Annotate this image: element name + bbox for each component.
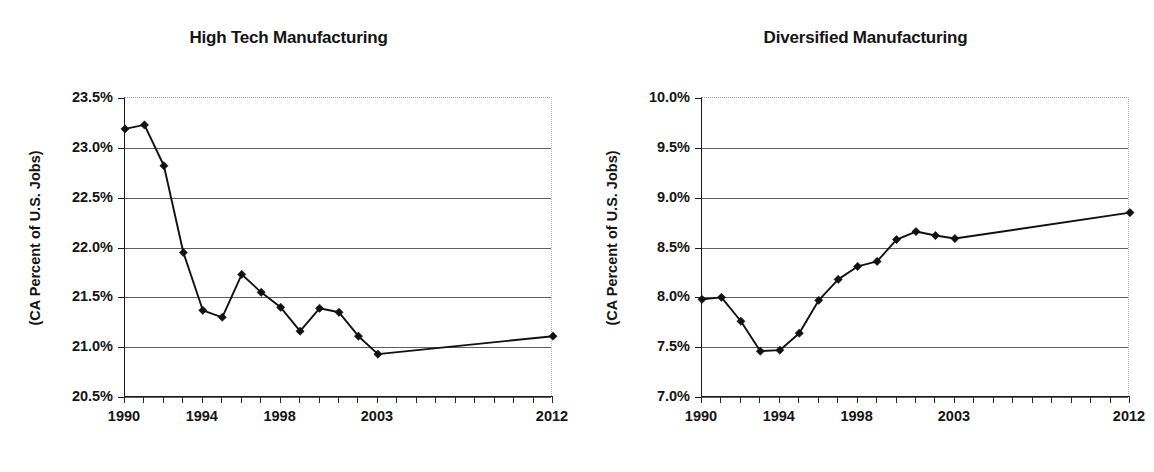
x-tick-label-1990: 1990 (685, 408, 717, 424)
x-tick-mark (759, 396, 760, 403)
x-tick-mark (1032, 396, 1033, 403)
y-axis-title-right-text: (CA Percent of U.S. Jobs) (604, 150, 620, 325)
x-tick-mark (182, 396, 183, 403)
y-tick-mark (118, 148, 125, 149)
x-tick-mark (202, 396, 203, 403)
y-tick-mark (695, 198, 702, 199)
x-tick-mark (435, 396, 436, 403)
plot-area-left (124, 97, 552, 396)
y-tick-label-right: 10.0% (620, 89, 690, 105)
chart-panel-high-tech-manufacturing: High Tech Manufacturing (CA Percent of U… (0, 0, 577, 472)
chart-title-right: Diversified Manufacturing (577, 28, 1154, 48)
x-tick-mark (818, 396, 819, 403)
x-tick-mark (701, 396, 702, 403)
x-tick-mark (1051, 396, 1052, 403)
x-tick-mark (720, 396, 721, 403)
y-tick-label-right: 7.0% (620, 388, 690, 404)
data-point-marker (1126, 209, 1134, 217)
y-tick-label-right: 7.5% (620, 338, 690, 354)
y-tick-mark (695, 98, 702, 99)
data-point-marker (218, 313, 226, 321)
data-point-marker (931, 231, 939, 239)
x-tick-mark (221, 396, 222, 403)
x-tick-mark (779, 396, 780, 403)
data-point-marker (912, 227, 920, 235)
x-tick-label-2012: 2012 (1113, 408, 1145, 424)
x-tick-mark (1090, 396, 1091, 403)
x-tick-mark (416, 396, 417, 403)
data-point-marker (160, 162, 168, 170)
y-tick-label-left: 20.5% (43, 388, 113, 404)
x-tick-mark (993, 396, 994, 403)
y-tick-label-left: 22.0% (43, 239, 113, 255)
x-tick-mark (377, 396, 378, 403)
x-tick-mark (143, 396, 144, 403)
x-tick-mark (124, 396, 125, 403)
data-series-left (125, 98, 553, 397)
series-line (125, 125, 553, 354)
x-tick-label-1998: 1998 (263, 408, 295, 424)
x-tick-mark (896, 396, 897, 403)
x-tick-mark (740, 396, 741, 403)
x-tick-mark (338, 396, 339, 403)
chart-panel-diversified-manufacturing: Diversified Manufacturing (CA Percent of… (577, 0, 1154, 472)
x-tick-mark (798, 396, 799, 403)
y-tick-label-left: 21.5% (43, 288, 113, 304)
x-tick-mark (299, 396, 300, 403)
x-tick-mark (494, 396, 495, 403)
data-point-marker (179, 248, 187, 256)
x-tick-mark (915, 396, 916, 403)
data-series-right (702, 98, 1130, 397)
y-tick-mark (118, 248, 125, 249)
x-tick-mark (241, 396, 242, 403)
x-tick-mark (513, 396, 514, 403)
x-tick-mark (973, 396, 974, 403)
chart-title-left: High Tech Manufacturing (0, 28, 577, 48)
data-point-marker (199, 306, 207, 314)
x-tick-mark (474, 396, 475, 403)
x-tick-mark (1071, 396, 1072, 403)
data-point-marker (121, 125, 129, 133)
x-tick-label-2003: 2003 (361, 408, 393, 424)
x-tick-mark (876, 396, 877, 403)
plot-area-right (701, 97, 1129, 396)
y-tick-mark (118, 198, 125, 199)
x-tick-mark (1129, 396, 1130, 403)
y-tick-label-right: 8.0% (620, 288, 690, 304)
y-tick-label-left: 22.5% (43, 189, 113, 205)
y-tick-label-right: 9.0% (620, 189, 690, 205)
x-tick-mark (533, 396, 534, 403)
y-tick-mark (695, 347, 702, 348)
y-tick-label-right: 9.5% (620, 139, 690, 155)
y-tick-mark (695, 148, 702, 149)
data-point-marker (140, 121, 148, 129)
x-tick-mark (396, 396, 397, 403)
x-tick-label-2003: 2003 (938, 408, 970, 424)
x-tick-mark (954, 396, 955, 403)
x-tick-label-1994: 1994 (186, 408, 218, 424)
x-tick-mark (357, 396, 358, 403)
x-tick-label-1998: 1998 (840, 408, 872, 424)
figure-container: High Tech Manufacturing (CA Percent of U… (0, 0, 1154, 472)
x-tick-mark (934, 396, 935, 403)
y-tick-mark (118, 98, 125, 99)
x-tick-mark (1012, 396, 1013, 403)
y-axis-title-left-text: (CA Percent of U.S. Jobs) (27, 150, 43, 325)
y-tick-label-left: 23.0% (43, 139, 113, 155)
x-tick-mark (280, 396, 281, 403)
y-tick-label-left: 21.0% (43, 338, 113, 354)
x-tick-label-1990: 1990 (108, 408, 140, 424)
y-tick-mark (695, 248, 702, 249)
x-tick-label-2012: 2012 (536, 408, 568, 424)
x-tick-mark (455, 396, 456, 403)
x-tick-mark (260, 396, 261, 403)
x-tick-mark (1110, 396, 1111, 403)
x-tick-mark (857, 396, 858, 403)
x-tick-mark (319, 396, 320, 403)
x-tick-mark (837, 396, 838, 403)
x-tick-label-1994: 1994 (763, 408, 795, 424)
y-tick-label-right: 8.5% (620, 239, 690, 255)
y-tick-label-left: 23.5% (43, 89, 113, 105)
y-tick-mark (118, 347, 125, 348)
x-tick-mark (163, 396, 164, 403)
